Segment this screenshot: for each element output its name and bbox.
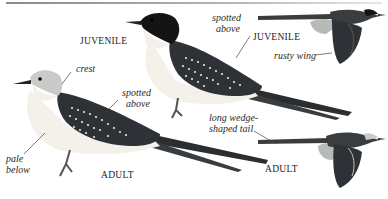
adult-flight-bird [258, 132, 386, 188]
label-juvenile-perched: JUVENILE [80, 36, 127, 46]
annotation-long-tail-line1: long wedge- [209, 112, 258, 123]
label-adult-flight: ADULT [265, 164, 298, 174]
annotation-spotted-above-juvenile-line1: spotted [212, 12, 241, 23]
annotation-spotted-above-adult: spotted above [122, 87, 151, 109]
label-adult-perched: ADULT [101, 170, 134, 180]
annotation-long-tail: long wedge- shaped tail [209, 112, 258, 134]
annotation-spotted-above-adult-line1: spotted [122, 87, 151, 98]
annotation-spotted-above-adult-line2: above [122, 98, 151, 109]
annotation-pale-below: pale below [6, 153, 30, 175]
annotation-long-tail-line2: shaped tail [209, 123, 258, 134]
label-juvenile-flight: JUVENILE [253, 32, 300, 42]
annotation-rusty-wing: rusty wing [274, 50, 316, 61]
annotation-crest: crest [76, 63, 95, 74]
bird-illustrations [0, 0, 388, 199]
annotation-pale-below-line1: pale [6, 153, 30, 164]
annotation-pale-below-line2: below [6, 164, 30, 175]
annotation-spotted-above-juvenile-line2: above [212, 23, 241, 34]
annotation-spotted-above-juvenile: spotted above [212, 12, 241, 34]
